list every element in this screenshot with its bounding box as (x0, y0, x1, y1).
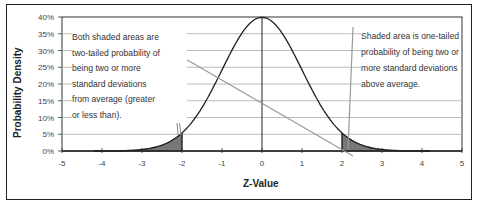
x-tick-label: -4 (98, 159, 106, 168)
x-tick-label: -3 (138, 159, 146, 168)
x-tick-label: -1 (218, 159, 226, 168)
annotation-line: more standard deviations (361, 60, 461, 76)
annotation-line: probability of being two or (361, 44, 461, 60)
y-tick-label: 30% (38, 47, 54, 56)
annotation-line: two-tailed probability of (72, 46, 187, 62)
x-tick-label: 2 (340, 159, 345, 168)
y-tick-label: 0% (42, 147, 54, 156)
x-tick-label: 4 (420, 159, 425, 168)
annotation-one-tailed: Shaded area is one-tailed probability of… (361, 28, 461, 92)
x-tick-label: 0 (260, 159, 265, 168)
y-tick-label: 20% (38, 80, 54, 89)
y-tick-label: 40% (38, 13, 54, 22)
y-tick-label: 25% (38, 63, 54, 72)
annotation-line: Shaded area is one-tailed (361, 28, 461, 44)
y-axis-label: Probability Density (12, 47, 23, 138)
annotation-line: from average (greater (72, 92, 187, 108)
x-tick-label: -5 (58, 159, 66, 168)
annotation-line: being two or more (72, 61, 187, 77)
annotation-two-tailed: Both shaded areas are two-tailed probabi… (72, 30, 187, 123)
annotation-line: Both shaded areas are (72, 30, 187, 46)
y-tick-label: 35% (38, 30, 54, 39)
y-tick-label: 5% (42, 130, 54, 139)
y-tick-label: 10% (38, 114, 54, 123)
annotation-line: or less than). (72, 108, 187, 124)
annotation-line: above average. (361, 76, 461, 92)
x-tick-label: 5 (460, 159, 465, 168)
x-tick-label: -2 (178, 159, 186, 168)
x-tick-label: 3 (380, 159, 385, 168)
y-tick-label: 15% (38, 97, 54, 106)
annotation-line: standard deviations (72, 77, 187, 93)
chart-container: 0%5%10%15%20%25%30%35%40%-5-4-3-2-101234… (0, 0, 479, 208)
x-axis-label: Z-Value (243, 178, 279, 189)
x-tick-label: 1 (300, 159, 305, 168)
